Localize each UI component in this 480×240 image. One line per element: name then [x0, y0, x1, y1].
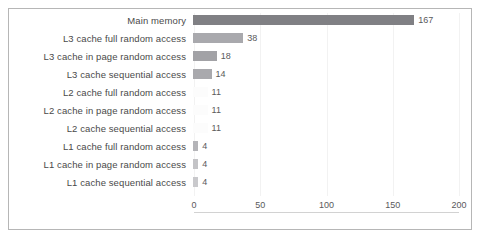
bar-value-label: 14 [216, 68, 226, 80]
bar[interactable] [193, 177, 198, 187]
category-label: L1 cache sequential access [9, 177, 193, 188]
category-label: Main memory [9, 15, 193, 26]
chart-frame: Main memory167L3 cache full random acces… [8, 8, 472, 230]
x-tick-label-100: 100 [319, 200, 334, 211]
bar-cell: 38 [193, 29, 471, 47]
x-tick-label-0: 0 [191, 200, 196, 211]
category-label: L3 cache full random access [9, 33, 193, 44]
category-label: L2 cache sequential access [9, 123, 193, 134]
bar-value-label: 4 [202, 176, 207, 188]
category-label: L3 cache in page random access [9, 51, 193, 62]
x-tick-label-150: 150 [385, 200, 400, 211]
bar-row: L2 cache in page random access11 [9, 101, 471, 119]
bar-cell: 4 [193, 137, 471, 155]
bar-value-label: 11 [212, 86, 221, 98]
bar-value-label: 38 [247, 32, 257, 44]
bar-value-label: 11 [212, 104, 221, 116]
bar-row: L3 cache full random access38 [9, 29, 471, 47]
bar[interactable] [193, 69, 212, 79]
bar-value-label: 4 [202, 158, 207, 170]
bar-value-label: 4 [202, 140, 207, 152]
bar-row: L2 cache full random access11 [9, 83, 471, 101]
category-label: L1 cache in page random access [9, 159, 193, 170]
bar[interactable] [193, 51, 217, 61]
bar[interactable] [193, 141, 198, 151]
bar-row: L2 cache sequential access11 [9, 119, 471, 137]
bar-cell: 4 [193, 173, 471, 191]
bar-row: L3 cache in page random access18 [9, 47, 471, 65]
x-axis-line [194, 212, 459, 213]
category-label: L2 cache in page random access [9, 105, 193, 116]
bar-cell: 11 [193, 83, 471, 101]
bar-row: L1 cache in page random access4 [9, 155, 471, 173]
bar[interactable] [193, 15, 414, 25]
bar-row: Main memory167 [9, 11, 471, 29]
x-tick-label-200: 200 [451, 200, 466, 211]
bar-cell: 11 [193, 101, 471, 119]
bar-row: L3 cache sequential access14 [9, 65, 471, 83]
bar[interactable] [193, 33, 243, 43]
bar[interactable] [193, 87, 208, 97]
bar-row: L1 cache sequential access4 [9, 173, 471, 191]
bar[interactable] [193, 159, 198, 169]
bar-cell: 167 [193, 11, 471, 29]
bar-value-label: 11 [212, 122, 221, 134]
bar[interactable] [193, 123, 208, 133]
x-tick-label-50: 50 [255, 200, 265, 211]
bar-cell: 11 [193, 119, 471, 137]
category-label: L3 cache sequential access [9, 69, 193, 80]
bar-cell: 18 [193, 47, 471, 65]
bar-value-label: 167 [418, 14, 433, 26]
bar-row: L1 cache full random access4 [9, 137, 471, 155]
category-label: L2 cache full random access [9, 87, 193, 98]
bar-cell: 4 [193, 155, 471, 173]
bar-value-label: 18 [221, 50, 231, 62]
bar-cell: 14 [193, 65, 471, 83]
bar[interactable] [193, 105, 208, 115]
category-label: L1 cache full random access [9, 141, 193, 152]
